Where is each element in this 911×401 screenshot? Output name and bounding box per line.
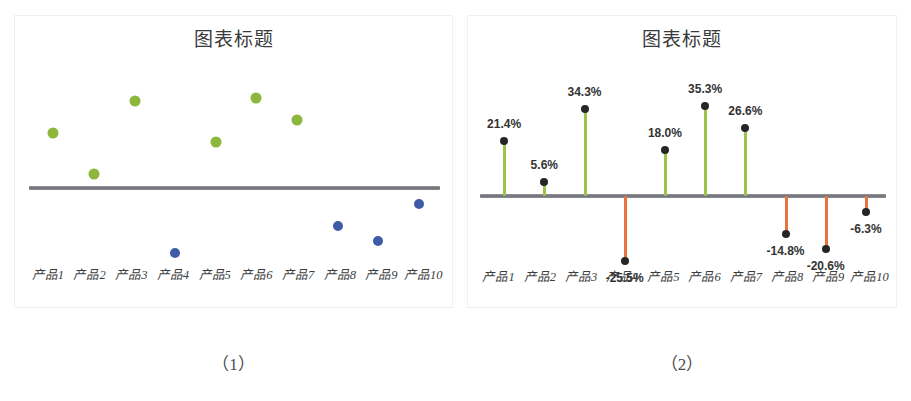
category-label: 产品6 <box>684 266 725 286</box>
chart-1-category-axis: 产品1产品2产品3产品4产品5产品6产品7产品8产品9产品10 <box>27 264 444 284</box>
chart-1-caption: （1） <box>14 350 453 375</box>
chart-2-caption: （2） <box>467 350 897 375</box>
category-label: 产品4 <box>152 264 194 284</box>
stem-line-positive <box>664 150 667 196</box>
category-label: 产品5 <box>194 264 236 284</box>
stem-marker <box>621 257 629 265</box>
chart-1-baseline <box>29 186 440 190</box>
category-label: 产品3 <box>110 264 152 284</box>
category-label: 产品8 <box>766 266 807 286</box>
stem-marker <box>540 178 548 186</box>
category-label: 产品10 <box>402 264 444 284</box>
scatter-point-positive <box>129 95 140 106</box>
category-label: 产品2 <box>69 264 111 284</box>
category-label: 产品7 <box>725 266 766 286</box>
category-label: 产品1 <box>27 264 69 284</box>
category-label: 产品10 <box>849 266 890 286</box>
stem-line-positive <box>503 141 506 196</box>
stem-marker <box>581 105 589 113</box>
stem-line-negative <box>785 196 788 234</box>
scatter-point-positive <box>251 92 262 103</box>
category-label: 产品1 <box>478 266 519 286</box>
chart-panel-2: 图表标题 21.4%5.6%34.3%-25.5%18.0%35.3%26.6%… <box>467 15 897 308</box>
figure-root: 图表标题 产品1产品2产品3产品4产品5产品6产品7产品8产品9产品10 （1）… <box>0 0 911 401</box>
category-label: 产品5 <box>643 266 684 286</box>
data-label: 26.6% <box>728 104 762 118</box>
category-label: 产品6 <box>236 264 278 284</box>
stem-marker <box>822 245 830 253</box>
scatter-point-positive <box>48 128 59 139</box>
scatter-point-negative <box>373 236 383 246</box>
scatter-point-positive <box>210 137 221 148</box>
data-label: -14.8% <box>766 244 804 258</box>
data-label: 35.3% <box>688 82 722 96</box>
data-label: 18.0% <box>648 126 682 140</box>
scatter-point-positive <box>291 115 302 126</box>
chart-panel-1: 图表标题 产品1产品2产品3产品4产品5产品6产品7产品8产品9产品10 <box>14 15 453 308</box>
chart-2-category-axis: 产品1产品2产品3产品4产品5产品6产品7产品8产品9产品10 <box>478 266 890 286</box>
stem-marker <box>862 208 870 216</box>
data-label: 5.6% <box>531 158 558 172</box>
category-label: 产品9 <box>808 266 849 286</box>
chart-2-plot-area: 21.4%5.6%34.3%-25.5%18.0%35.3%26.6%-14.8… <box>468 16 896 307</box>
stem-line-positive <box>584 109 587 196</box>
scatter-point-negative <box>414 199 424 209</box>
stem-line-positive <box>704 106 707 196</box>
category-label: 产品7 <box>277 264 319 284</box>
category-label: 产品3 <box>560 266 601 286</box>
category-label: 产品8 <box>319 264 361 284</box>
category-label: 产品9 <box>361 264 403 284</box>
data-label: 21.4% <box>487 117 521 131</box>
stem-marker <box>500 137 508 145</box>
stem-marker <box>661 146 669 154</box>
scatter-point-positive <box>88 168 99 179</box>
stem-marker <box>782 230 790 238</box>
category-label: 产品2 <box>519 266 560 286</box>
stem-line-negative <box>624 196 627 261</box>
data-label: -6.3% <box>850 222 881 236</box>
data-label: 34.3% <box>567 85 601 99</box>
stem-line-positive <box>744 128 747 196</box>
scatter-point-negative <box>170 248 180 258</box>
stem-line-negative <box>825 196 828 249</box>
stem-marker <box>701 102 709 110</box>
category-label: 产品4 <box>602 266 643 286</box>
scatter-point-negative <box>333 221 343 231</box>
stem-marker <box>741 124 749 132</box>
